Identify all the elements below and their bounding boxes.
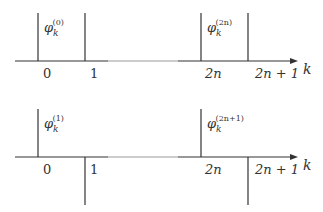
tick-1: 1: [90, 162, 98, 177]
tick-2n-plus-1: 2n + 1: [255, 162, 299, 177]
phi-2n-label: φk(2n): [207, 20, 238, 35]
tick-1: 1: [90, 66, 98, 81]
bottom-axis: [15, 154, 298, 160]
axis-label-k: k: [303, 61, 311, 77]
phi-0-label: φk(0): [44, 20, 70, 35]
top-axis: [15, 58, 298, 64]
tick-0: 0: [43, 66, 51, 81]
arrow-head-icon: [290, 58, 298, 64]
tick-2n: 2n: [205, 162, 222, 177]
axis-label-k: k: [303, 157, 311, 173]
tick-2n: 2n: [205, 66, 222, 81]
phi-2n1-label: φk(2n+1): [207, 116, 250, 131]
arrow-head-icon: [290, 154, 298, 160]
phi-1-label: φk(1): [44, 116, 70, 131]
tick-0: 0: [43, 162, 51, 177]
tick-2n-plus-1: 2n + 1: [255, 66, 299, 81]
